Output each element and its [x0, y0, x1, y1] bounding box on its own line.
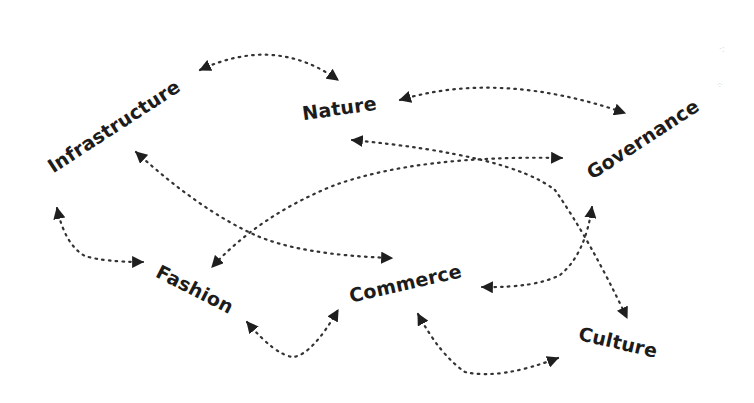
edge-nature-governance [400, 88, 625, 113]
edge-governance-fashion [212, 158, 562, 267]
scan-artifact: ⁘ [716, 80, 724, 90]
edge-infrastructure-fashion [57, 208, 143, 262]
scan-artifact: ·: [719, 44, 725, 54]
edge-governance-commerce [482, 207, 592, 287]
edge-infrastructure-nature [200, 55, 338, 80]
edge-infrastructure-commerce [136, 152, 392, 258]
edge-fashion-commerce [247, 310, 338, 357]
edge-commerce-culture [418, 314, 558, 374]
